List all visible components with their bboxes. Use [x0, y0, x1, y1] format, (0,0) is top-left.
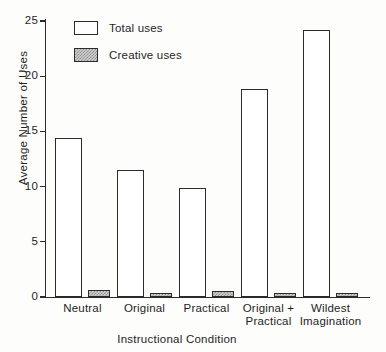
bar-group — [55, 21, 110, 297]
y-axis-tick-label: 25 — [0, 14, 38, 26]
bar-group — [303, 21, 358, 297]
bar-creative-uses — [274, 293, 296, 298]
bar-group — [179, 21, 234, 297]
y-axis-title: Average Number of Uses — [17, 38, 29, 198]
bar-creative-uses — [336, 293, 358, 298]
x-axis-title-text: Instructional Condition — [117, 333, 237, 345]
bar-total-uses — [55, 138, 82, 297]
bar-total-uses — [241, 89, 268, 297]
bar-total-uses — [117, 170, 144, 297]
bar-creative-uses — [150, 293, 172, 298]
bar-total-uses — [179, 188, 206, 297]
bar-creative-uses — [88, 290, 110, 297]
y-axis-tick-label: 5 — [0, 235, 38, 247]
x-axis-title: Instructional Condition — [0, 333, 386, 345]
y-axis-tick-label: 0 — [0, 290, 38, 302]
bar-chart-figure: Total uses Creative uses 0510152025 Aver… — [0, 0, 386, 352]
bar-group — [241, 21, 296, 297]
bar-total-uses — [303, 30, 330, 297]
x-axis-category-label: Wildest Imagination — [286, 302, 376, 327]
plot-area — [46, 21, 368, 297]
bar-group — [117, 21, 172, 297]
bar-creative-uses — [212, 291, 234, 297]
